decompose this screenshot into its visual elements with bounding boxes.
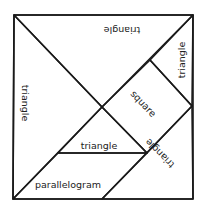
label-square: square (128, 88, 158, 119)
label-left-triangle: triangle (20, 85, 31, 122)
top-large-triangle (14, 15, 193, 107)
label-top-right-triangle: triangle (176, 42, 187, 79)
label-parallelogram: parallelogram (35, 179, 101, 190)
label-center-triangle: triangle (81, 140, 118, 151)
label-top-triangle: triangle (104, 25, 141, 36)
parallelogram-piece (13, 153, 147, 199)
tangram-diagram: triangle triangle triangle square triang… (0, 0, 203, 206)
